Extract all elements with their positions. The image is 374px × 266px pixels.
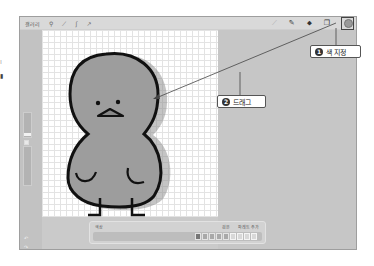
gallery-button[interactable]: 갤러리 — [25, 20, 40, 27]
step-number-1: 1 — [315, 48, 323, 56]
undo-icon[interactable]: ↶ — [24, 235, 28, 241]
palette-label-black[interactable]: 검은 — [222, 224, 230, 230]
magic-wand-icon[interactable]: ⟋ — [62, 21, 66, 27]
margin-mark: ▮ — [0, 72, 3, 79]
drawing-canvas[interactable] — [42, 30, 218, 217]
palette-right-labels: 검은 파레트 추가 — [222, 224, 259, 230]
palette-swatch[interactable] — [216, 233, 222, 240]
palette-swatch[interactable] — [230, 233, 236, 240]
palette-swatch[interactable] — [251, 233, 257, 240]
color-palette-panel: 색상 검은 파레트 추가 — [89, 221, 266, 244]
palette-swatches — [195, 233, 257, 240]
palette-swatch[interactable] — [237, 233, 243, 240]
annotation-label: 색 지정 — [326, 47, 346, 57]
layers-icon[interactable]: ❐ — [324, 20, 330, 27]
tablet-screen: 갤러리 ⚲ ⟋ ʃ ↗ ⟋ ✎ ⬥ ❐ ↶ ↷ — [19, 16, 357, 250]
step-number-2: 2 — [222, 98, 230, 106]
palette-swatch[interactable] — [244, 233, 250, 240]
annotation-label: 드래그 — [233, 97, 251, 107]
brush-size-slider[interactable] — [23, 112, 32, 138]
toolbar-right-group: ⟋ ✎ ⬥ ❐ — [272, 17, 354, 30]
annotation-drag: 2 드래그 — [217, 95, 266, 108]
left-sidebar: ↶ ↷ — [20, 30, 42, 250]
redo-icon[interactable]: ↷ — [24, 244, 28, 250]
opacity-slider[interactable] — [23, 146, 32, 186]
palette-title: 색상 — [95, 224, 103, 230]
top-toolbar: 갤러리 ⚲ ⟋ ʃ ↗ ⟋ ✎ ⬥ ❐ — [20, 17, 356, 30]
palette-label-add[interactable]: 파레트 추가 — [238, 224, 259, 230]
duck-drawing — [42, 30, 218, 217]
toolbar-left-group: 갤러리 ⚲ ⟋ ʃ ↗ — [25, 17, 91, 30]
eraser-icon[interactable]: ⬥ — [307, 20, 312, 27]
smudge-icon[interactable]: ✎ — [289, 20, 295, 27]
annotation-color-select: 1 색 지정 — [310, 45, 361, 58]
canvas-background — [218, 30, 356, 250]
palette-swatch[interactable] — [195, 233, 201, 240]
palette-swatch[interactable] — [202, 233, 208, 240]
margin-mark: ⁞ — [0, 58, 2, 65]
transform-arrow-icon[interactable]: ↗ — [86, 21, 91, 27]
selection-icon[interactable]: ʃ — [75, 21, 77, 27]
palette-swatch[interactable] — [209, 233, 215, 240]
brush-icon[interactable]: ⟋ — [272, 20, 277, 27]
slider-knob[interactable] — [24, 133, 31, 136]
wrench-icon[interactable]: ⚲ — [49, 21, 53, 27]
color-highlight-box — [341, 17, 354, 30]
color-button[interactable] — [342, 18, 354, 30]
palette-swatch[interactable] — [223, 233, 229, 240]
modify-button[interactable] — [24, 140, 29, 145]
